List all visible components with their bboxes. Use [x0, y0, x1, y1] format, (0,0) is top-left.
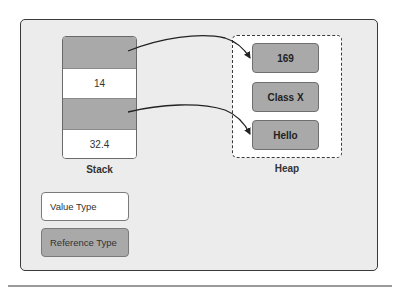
- stack-column: 14 32.4: [62, 36, 137, 159]
- heap-region: 169 Class X Hello: [232, 35, 342, 158]
- stack-reference-slot-2: [63, 98, 136, 129]
- stack-label: Stack: [62, 164, 137, 175]
- heap-item-class-x: Class X: [252, 82, 319, 112]
- bottom-divider: [8, 285, 392, 287]
- heap-item-169: 169: [252, 43, 319, 73]
- stack-value-slot-1: 14: [63, 68, 136, 99]
- stack-value-slot-2: 32.4: [63, 129, 136, 160]
- legend-value-type: Value Type: [41, 192, 129, 221]
- legend-reference-type: Reference Type: [41, 228, 129, 257]
- heap-label: Heap: [232, 163, 342, 174]
- heap-item-hello: Hello: [252, 120, 319, 150]
- stack-reference-slot-1: [63, 37, 136, 68]
